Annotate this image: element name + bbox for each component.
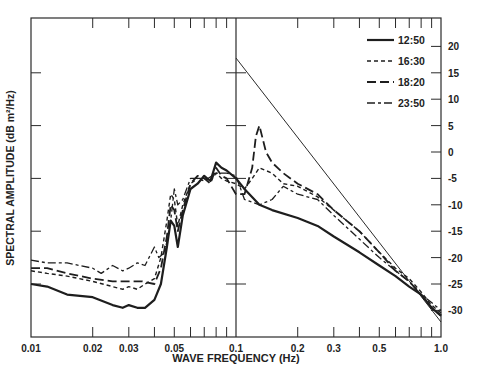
x-tick-label: 0.01 [21,343,41,354]
legend-label: 23:50 [398,97,425,109]
legend-label: 12:50 [398,34,425,46]
legend-label: 18:20 [398,76,425,88]
y-tick-label: -15 [448,226,463,237]
x-tick-label: 0.03 [119,343,139,354]
y-tick-label: -20 [448,253,463,264]
spectrum-chart: 0.010.020.030.050.10.20.30.51.0 20151050… [0,0,478,378]
x-tick-label: 0.5 [372,343,386,354]
legend: 12:5016:3018:2023:50 [367,34,425,109]
y-axis-label: SPECTRAL AMPLITUDE (dB m²/Hz) [4,90,16,266]
x-tick-label: 0.3 [327,343,341,354]
y-tick-label: -5 [448,173,457,184]
y-tick-label: -10 [448,200,463,211]
y-tick-labels: 20151050-5-10-15-20-25-30 [448,41,463,316]
y-tick-label: -25 [448,279,463,290]
y-tick-label: 10 [448,94,460,105]
x-axis-label: WAVE FREQUENCY (Hz) [172,352,300,364]
y-tick-label: -30 [448,305,463,316]
x-tick-label: 0.02 [83,343,103,354]
y-tick-label: 15 [448,68,460,79]
x-tick-label: 1.0 [434,343,448,354]
y-tick-label: 0 [448,147,454,158]
legend-label: 16:30 [398,55,425,67]
y-tick-label: 20 [448,41,460,52]
y-tick-label: 5 [448,121,454,132]
